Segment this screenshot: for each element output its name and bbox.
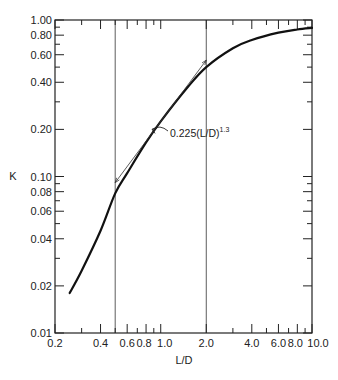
y-tick-label: 0.01: [31, 327, 52, 339]
chart: 0.20.40.60.81.02.04.06.08.010.0 0.010.02…: [0, 0, 338, 380]
y-tick-label: 0.60: [31, 49, 52, 61]
x-tick-label: 0.6: [120, 337, 135, 349]
y-tick-label: 0.04: [31, 233, 52, 245]
x-tick-label: 8.0: [288, 337, 303, 349]
x-tick-label: 0.8: [136, 337, 151, 349]
plot-frame: [55, 20, 312, 333]
x-tick-label: 2.0: [199, 337, 214, 349]
y-tick-label: 0.06: [31, 205, 52, 217]
y-tick-label: 0.10: [31, 171, 52, 183]
y-tick-label: 1.00: [31, 14, 52, 26]
y-tick-label: 0.80: [31, 29, 52, 41]
x-tick-label: 10.0: [307, 337, 328, 349]
x-tick-label: 6.0: [271, 337, 286, 349]
y-tick-label: 0.20: [31, 123, 52, 135]
x-tick-label: 0.4: [93, 337, 108, 349]
data-series: [70, 28, 312, 293]
y-axis-ticks: 0.010.020.040.060.080.100.200.400.600.80…: [31, 14, 312, 339]
y-axis-label: K: [9, 170, 17, 182]
power-law-label: 0.225(L/D)1.3: [170, 126, 229, 139]
x-tick-label: 1.0: [157, 337, 172, 349]
x-axis-label: L/D: [175, 354, 192, 366]
y-tick-label: 0.02: [31, 280, 52, 292]
k-curve: [70, 28, 312, 293]
y-tick-label: 0.08: [31, 186, 52, 198]
x-axis-ticks: 0.20.40.60.81.02.04.06.08.010.0: [47, 20, 328, 349]
x-tick-label: 4.0: [244, 337, 259, 349]
power-law-line: [115, 60, 206, 182]
annotations: 0.225(L/D)1.3: [152, 126, 229, 139]
plot-border: [55, 20, 312, 333]
vertical-reference-lines: [115, 20, 206, 333]
y-tick-label: 0.40: [31, 76, 52, 88]
